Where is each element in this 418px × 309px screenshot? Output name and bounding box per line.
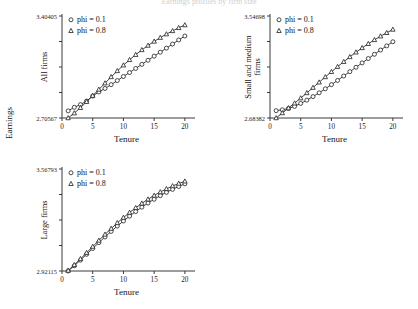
data-point-marker — [164, 46, 168, 50]
x-tick-label: 5 — [91, 276, 95, 284]
x-tick-label: 15 — [359, 123, 367, 131]
legend-circle-icon — [277, 18, 281, 22]
data-point-marker — [109, 83, 113, 87]
legend-label: phi = 0.8 — [77, 26, 106, 35]
x-tick-label: 20 — [181, 276, 189, 284]
x-axis-ticks: 05101520 — [268, 118, 397, 131]
data-point-marker — [170, 184, 174, 188]
data-point-marker — [385, 44, 389, 48]
data-point-marker — [152, 54, 156, 58]
data-point-marker — [329, 83, 333, 87]
data-point-marker — [164, 32, 168, 36]
x-axis-title: Tenure — [114, 134, 139, 144]
y-axis-max-label: 3.54698 — [244, 13, 265, 20]
data-point-marker — [134, 205, 138, 209]
data-point-marker — [146, 201, 150, 205]
data-point-marker — [354, 50, 358, 54]
legend-triangle-icon — [69, 28, 73, 32]
y-axis-min-label: 2.70567 — [36, 115, 58, 122]
data-point-marker — [140, 47, 144, 51]
data-point-marker — [336, 78, 340, 82]
data-point-marker — [170, 29, 174, 33]
data-point-marker — [391, 27, 395, 31]
x-tick-label: 0 — [268, 123, 272, 131]
data-point-marker — [323, 87, 327, 91]
x-tick-label: 10 — [328, 123, 336, 131]
data-point-marker — [158, 35, 162, 39]
legend-triangle-icon — [69, 181, 73, 185]
data-point-marker — [146, 43, 150, 47]
data-point-marker — [152, 197, 156, 201]
data-point-marker — [177, 25, 181, 29]
data-point-marker — [372, 52, 376, 56]
data-point-marker — [305, 98, 309, 102]
series-phi-0-1 — [66, 34, 187, 113]
data-point-marker — [121, 74, 125, 78]
global-y-axis-label: Earnings — [4, 93, 14, 153]
data-point-marker — [140, 205, 144, 209]
data-point-marker — [183, 34, 187, 38]
data-point-marker — [128, 71, 132, 75]
x-tick-label: 15 — [151, 123, 159, 131]
data-point-marker — [152, 193, 156, 197]
data-point-marker — [360, 61, 364, 65]
legend-label: phi = 0.8 — [77, 179, 106, 188]
data-point-marker — [366, 57, 370, 61]
data-point-marker — [134, 66, 138, 70]
legend-triangle-icon — [277, 28, 281, 32]
series-phi-0-1 — [274, 40, 395, 113]
data-point-marker — [158, 194, 162, 198]
y-axis-max-label: 3.56793 — [36, 166, 57, 173]
data-point-marker — [134, 210, 138, 214]
x-axis-ticks: 05101520 — [60, 118, 189, 131]
data-point-marker — [152, 39, 156, 43]
data-point-marker — [72, 105, 76, 109]
data-point-marker — [372, 37, 376, 41]
data-point-marker — [183, 179, 187, 183]
panel-large-firms: 3.567932.9211505101520phi = 0.1phi = 0.8… — [14, 163, 196, 299]
chart-small-medium-firms: 3.546982.6838205101520phi = 0.1phi = 0.8… — [222, 10, 404, 146]
panel-small-medium-firms: 3.546982.6838205101520phi = 0.1phi = 0.8… — [222, 10, 404, 146]
data-point-marker — [274, 109, 278, 113]
data-point-marker — [127, 210, 131, 214]
legend: phi = 0.1phi = 0.8 — [277, 15, 314, 35]
x-tick-label: 20 — [181, 123, 189, 131]
x-tick-label: 0 — [60, 123, 64, 131]
data-point-marker — [366, 41, 370, 45]
chart-all-firms: 3.404052.7056705101520phi = 0.1phi = 0.8… — [14, 10, 196, 146]
data-point-marker — [354, 65, 358, 69]
x-axis-title: Tenure — [322, 134, 347, 144]
y-axis-min-label: 2.68382 — [244, 115, 265, 122]
data-point-marker — [360, 46, 364, 50]
panel-y-axis-label: Small and mediumfirms — [244, 35, 262, 99]
legend-circle-icon — [69, 18, 73, 22]
data-point-marker — [140, 62, 144, 66]
data-point-marker — [183, 23, 187, 27]
data-point-marker — [299, 101, 303, 105]
svg-text:Small and medium: Small and medium — [244, 35, 253, 99]
svg-text:firms: firms — [253, 58, 262, 76]
legend-circle-icon — [69, 171, 73, 175]
legend: phi = 0.1phi = 0.8 — [69, 168, 106, 188]
figure-title: Earnings profiles by firm size — [0, 0, 418, 6]
y-axis-max-label: 3.40405 — [36, 13, 57, 20]
x-tick-label: 5 — [299, 123, 303, 131]
panel-all-firms: 3.404052.7056705101520phi = 0.1phi = 0.8… — [14, 10, 196, 146]
series-phi-0-8 — [66, 23, 187, 120]
data-point-marker — [146, 197, 150, 201]
x-tick-label: 10 — [120, 123, 128, 131]
x-axis-title: Tenure — [114, 287, 139, 297]
x-tick-label: 10 — [120, 276, 128, 284]
data-point-marker — [128, 214, 132, 218]
x-tick-label: 5 — [91, 123, 95, 131]
data-point-marker — [378, 34, 382, 38]
x-tick-label: 20 — [389, 123, 397, 131]
series-phi-0-8 — [274, 27, 395, 120]
data-point-marker — [171, 42, 175, 46]
data-point-marker — [177, 181, 181, 185]
data-point-marker — [66, 109, 70, 113]
x-axis-ticks: 05101520 — [60, 271, 189, 284]
data-point-marker — [115, 79, 119, 83]
data-point-marker — [164, 186, 168, 190]
data-point-marker — [158, 50, 162, 54]
